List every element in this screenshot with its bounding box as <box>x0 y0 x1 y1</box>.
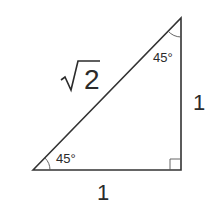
triangle-diagram: 45° 45° 2 1 1 <box>0 0 215 216</box>
hypotenuse-label: 2 <box>61 61 100 95</box>
top-angle-arc <box>168 31 181 37</box>
right-angle-marker <box>170 159 181 170</box>
top-angle-label: 45° <box>153 50 173 65</box>
bottom-angle-arc <box>45 158 50 170</box>
hypotenuse-value: 2 <box>84 64 100 95</box>
vertical-leg-label: 1 <box>193 90 205 115</box>
right-triangle <box>33 18 181 170</box>
bottom-angle-label: 45° <box>56 151 76 166</box>
horizontal-leg-label: 1 <box>97 180 109 205</box>
